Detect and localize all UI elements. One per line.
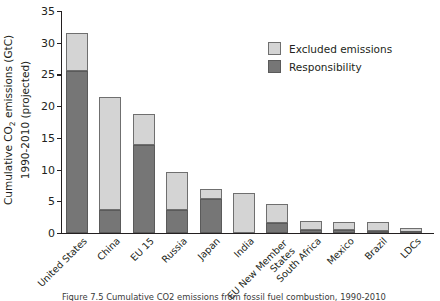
y-tick-label: 15 bbox=[41, 131, 55, 144]
y-tick-label: 0 bbox=[48, 227, 55, 240]
bar-segment-responsibility bbox=[133, 145, 155, 233]
figure-caption: Figure 7.5 Cumulative CO2 emissions from… bbox=[62, 292, 438, 301]
bar-india bbox=[233, 193, 255, 233]
bar-segment-responsibility bbox=[300, 230, 322, 233]
y-tick-label: 35 bbox=[41, 5, 55, 18]
y-tick-mark bbox=[57, 233, 61, 234]
bar-eu-new-member-states bbox=[266, 204, 288, 233]
x-tick-label-mexico: Mexico bbox=[325, 236, 356, 267]
bar-united-states bbox=[66, 33, 88, 233]
y-axis-title-subscript: 2 bbox=[8, 121, 17, 126]
y-tick-mark bbox=[57, 170, 61, 171]
legend-swatch-resp bbox=[268, 60, 281, 73]
y-tick-mark bbox=[57, 43, 61, 44]
bar-segment-responsibility bbox=[200, 199, 222, 233]
bar-segment-responsibility bbox=[333, 230, 355, 233]
bar-brazil bbox=[367, 222, 389, 233]
bar-segment-excluded-emissions bbox=[200, 189, 222, 200]
legend-label: Responsibility bbox=[289, 61, 362, 73]
bar-ldcs bbox=[400, 228, 422, 233]
x-axis-tick-labels: United StatesChinaEU 15RussiaJapanIndiaE… bbox=[62, 236, 434, 298]
bar-segment-excluded-emissions bbox=[133, 114, 155, 145]
bar-segment-responsibility bbox=[166, 210, 188, 233]
y-tick-mark bbox=[57, 138, 61, 139]
bar-russia bbox=[166, 172, 188, 233]
bar-segment-excluded-emissions bbox=[233, 193, 255, 233]
y-tick-label: 20 bbox=[41, 100, 55, 113]
y-axis-title: Cumulative CO2 emissions (GtC) 1990-2010… bbox=[0, 0, 34, 240]
y-tick-mark bbox=[57, 11, 61, 12]
y-axis-title-line1-b: emissions (GtC) bbox=[2, 35, 14, 121]
y-tick-mark bbox=[57, 106, 61, 107]
legend-item-excluded: Excluded emissions bbox=[268, 42, 438, 55]
bar-segment-responsibility bbox=[367, 231, 389, 233]
y-tick-label: 25 bbox=[41, 68, 55, 81]
legend-item-resp: Responsibility bbox=[268, 60, 438, 73]
x-tick-label-brazil: Brazil bbox=[364, 236, 390, 262]
bar-segment-excluded-emissions bbox=[166, 172, 188, 209]
bar-segment-responsibility bbox=[266, 223, 288, 233]
bar-segment-excluded-emissions bbox=[266, 204, 288, 222]
x-tick-label-japan: Japan bbox=[197, 236, 223, 262]
y-tick-label: 30 bbox=[41, 36, 55, 49]
bar-mexico bbox=[333, 222, 355, 233]
bar-eu-15 bbox=[133, 114, 155, 233]
y-axis-title-line2: 1990-2010 (projected) bbox=[19, 35, 32, 205]
bar-segment-responsibility bbox=[99, 210, 121, 233]
x-tick-label-eu-15: EU 15 bbox=[129, 236, 156, 263]
y-tick-label: 5 bbox=[48, 195, 55, 208]
bar-segment-excluded-emissions bbox=[300, 221, 322, 230]
bar-segment-excluded-emissions bbox=[99, 97, 121, 210]
bar-segment-excluded-emissions bbox=[367, 222, 389, 231]
bar-segment-excluded-emissions bbox=[66, 33, 88, 70]
y-tick-mark bbox=[57, 201, 61, 202]
bar-segment-responsibility bbox=[400, 231, 422, 233]
figure-container: Cumulative CO2 emissions (GtC) 1990-2010… bbox=[0, 0, 440, 301]
y-tick-label: 10 bbox=[41, 163, 55, 176]
x-tick-label-china: China bbox=[96, 236, 123, 263]
x-tick-label-united-states: United States bbox=[36, 236, 89, 289]
legend-label: Excluded emissions bbox=[289, 43, 392, 55]
x-tick-label-russia: Russia bbox=[160, 236, 189, 265]
legend: Excluded emissionsResponsibility bbox=[268, 42, 438, 78]
bar-china bbox=[99, 97, 121, 233]
bar-segment-responsibility bbox=[66, 71, 88, 233]
bar-south-africa bbox=[300, 221, 322, 233]
x-tick-label-ldcs: LDCs bbox=[399, 236, 424, 261]
bar-segment-excluded-emissions bbox=[333, 222, 355, 230]
y-tick-mark bbox=[57, 74, 61, 75]
y-axis-title-line1-a: Cumulative CO bbox=[2, 126, 14, 205]
legend-swatch-excluded bbox=[268, 42, 281, 55]
x-tick-label-india: India bbox=[232, 236, 256, 260]
bar-japan bbox=[200, 189, 222, 233]
